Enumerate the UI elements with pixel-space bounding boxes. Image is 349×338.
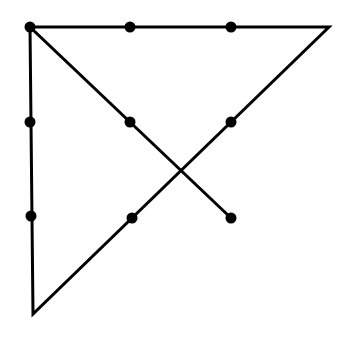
nine-dot-diagram	[0, 0, 349, 338]
dot-4	[25, 117, 36, 128]
dot-7	[26, 211, 37, 222]
dot-5	[125, 117, 136, 128]
dot-9	[226, 213, 237, 224]
dot-6	[226, 117, 237, 128]
dot-8	[127, 213, 138, 224]
solution-path-line	[30, 27, 329, 314]
diagram-canvas	[0, 0, 349, 338]
dot-3	[226, 22, 237, 33]
dot-1	[25, 22, 36, 33]
dot-2	[125, 22, 136, 33]
